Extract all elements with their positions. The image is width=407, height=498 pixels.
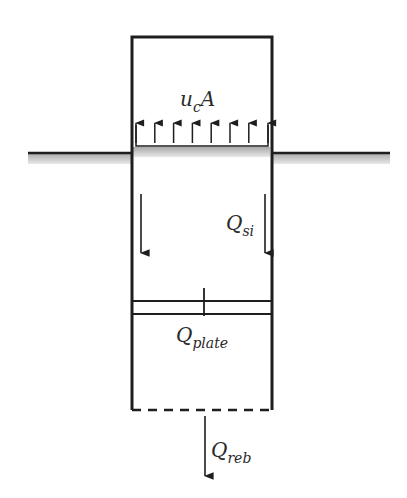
anchor-plate	[133, 288, 271, 316]
label-base-reaction: Qreb	[211, 438, 251, 466]
label-top-load: ucA	[180, 87, 215, 115]
ground-surface	[28, 147, 390, 164]
label-side-friction: Qsi	[226, 211, 254, 239]
label-plate: Qplate	[176, 323, 228, 351]
top-load-arrows	[136, 123, 268, 146]
diagram-canvas: ucA Qsi Qplate Qreb	[0, 0, 407, 498]
